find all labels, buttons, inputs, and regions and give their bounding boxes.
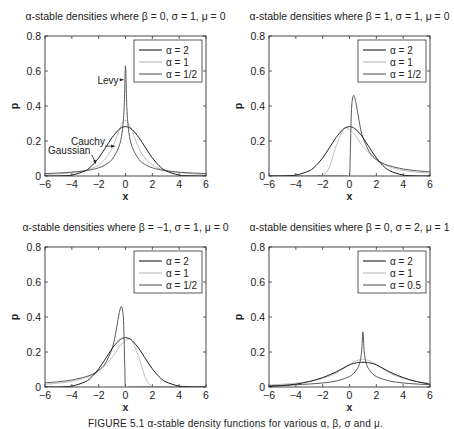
chart-legend: α = 2α = 1α = 1/2 xyxy=(358,40,426,82)
x-tick-label: 2 xyxy=(149,178,155,190)
chart-panel-4: α-stable densities where β = 0, σ = 2, μ… xyxy=(232,221,450,413)
legend-label: α = 1/2 xyxy=(166,69,198,80)
legend-label: α = 2 xyxy=(390,256,413,267)
y-axis-label: p xyxy=(8,314,20,320)
series-line-2 xyxy=(269,359,430,385)
y-tick-label: 0.6 xyxy=(250,276,265,288)
x-tick-label: 4 xyxy=(176,389,182,401)
x-tick-label: 4 xyxy=(400,389,406,401)
y-tick-label: 0.8 xyxy=(250,30,265,42)
x-tick-label: −4 xyxy=(290,178,302,190)
chart-title: α-stable densities where β = 1, σ = 1, μ… xyxy=(249,10,449,22)
y-axis-label: p xyxy=(8,103,20,109)
series-line-3 xyxy=(269,332,430,386)
legend-label: α = 1 xyxy=(390,57,413,68)
y-tick-label: 0.8 xyxy=(250,241,265,253)
y-tick-label: 0.8 xyxy=(26,30,41,42)
x-tick-label: 6 xyxy=(203,178,209,190)
y-tick-label: 0.4 xyxy=(26,311,41,323)
y-tick-label: 0.2 xyxy=(26,346,41,358)
y-tick-label: 0.2 xyxy=(250,346,265,358)
x-tick-label: −2 xyxy=(93,389,105,401)
series-line-3 xyxy=(45,306,206,388)
y-tick-label: 0.4 xyxy=(26,100,41,112)
series-line-3 xyxy=(269,95,430,177)
figure-caption: FIGURE 5.1 α-stable density functions fo… xyxy=(88,418,383,429)
annotation: Levy xyxy=(97,75,123,86)
y-axis-label: p xyxy=(232,103,244,109)
x-tick-label: −2 xyxy=(317,178,329,190)
annotation: Gaussian xyxy=(48,145,96,164)
x-tick-label: 0 xyxy=(123,178,129,190)
x-axis-label: x xyxy=(123,190,129,202)
legend-label: α = 2 xyxy=(390,45,413,56)
x-axis-label: x xyxy=(347,190,353,202)
y-axis-label: p xyxy=(232,314,244,320)
chart-panel-2: α-stable densities where β = 1, σ = 1, μ… xyxy=(232,10,450,202)
x-tick-label: 6 xyxy=(427,389,433,401)
x-tick-label: 2 xyxy=(373,389,379,401)
x-tick-label: −2 xyxy=(317,389,329,401)
chart-title: α-stable densities where β = 0, σ = 1, μ… xyxy=(25,10,225,22)
y-tick-label: 0 xyxy=(259,170,265,182)
x-tick-label: 6 xyxy=(427,178,433,190)
y-tick-label: 0.4 xyxy=(250,100,265,112)
legend-label: α = 1/2 xyxy=(166,280,198,291)
chart-legend: α = 2α = 1α = 1/2 xyxy=(134,40,202,82)
y-tick-label: 0 xyxy=(259,381,265,393)
chart-panel-3: α-stable densities where β = −1, σ = 1, … xyxy=(8,221,229,413)
legend-label: α = 1 xyxy=(390,268,413,279)
x-tick-label: −2 xyxy=(93,178,105,190)
chart-legend: α = 2α = 1α = 0.5 xyxy=(358,251,426,293)
x-tick-label: −4 xyxy=(290,389,302,401)
x-tick-label: 2 xyxy=(149,389,155,401)
x-tick-label: 6 xyxy=(203,389,209,401)
x-tick-label: −4 xyxy=(66,178,78,190)
y-tick-label: 0.6 xyxy=(26,276,41,288)
x-tick-label: 0 xyxy=(347,389,353,401)
chart-title: α-stable densities where β = 0, σ = 2, μ… xyxy=(249,221,449,233)
svg-text:Levy: Levy xyxy=(97,75,118,86)
x-tick-label: 4 xyxy=(176,178,182,190)
x-tick-label: 0 xyxy=(123,389,129,401)
legend-label: α = 1/2 xyxy=(390,69,422,80)
legend-label: α = 0.5 xyxy=(390,280,422,291)
legend-label: α = 2 xyxy=(166,256,189,267)
x-tick-label: 0 xyxy=(347,178,353,190)
chart-title: α-stable densities where β = −1, σ = 1, … xyxy=(22,221,228,233)
chart-panel-1: α-stable densities where β = 0, σ = 1, μ… xyxy=(8,10,226,202)
x-axis-label: x xyxy=(123,401,129,413)
x-axis-label: x xyxy=(347,401,353,413)
x-tick-label: −4 xyxy=(66,389,78,401)
svg-text:Gaussian: Gaussian xyxy=(48,145,90,156)
y-tick-label: 0.2 xyxy=(26,135,41,147)
legend-label: α = 1 xyxy=(166,57,189,68)
y-tick-label: 0 xyxy=(35,170,41,182)
y-tick-label: 0.2 xyxy=(250,135,265,147)
legend-label: α = 2 xyxy=(166,45,189,56)
y-tick-label: 0 xyxy=(35,381,41,393)
y-tick-label: 0.6 xyxy=(26,65,41,77)
legend-label: α = 1 xyxy=(166,268,189,279)
y-tick-label: 0.4 xyxy=(250,311,265,323)
chart-legend: α = 2α = 1α = 1/2 xyxy=(134,251,202,293)
y-tick-label: 0.6 xyxy=(250,65,265,77)
x-tick-label: 2 xyxy=(373,178,379,190)
y-tick-label: 0.8 xyxy=(26,241,41,253)
x-tick-label: 4 xyxy=(400,178,406,190)
